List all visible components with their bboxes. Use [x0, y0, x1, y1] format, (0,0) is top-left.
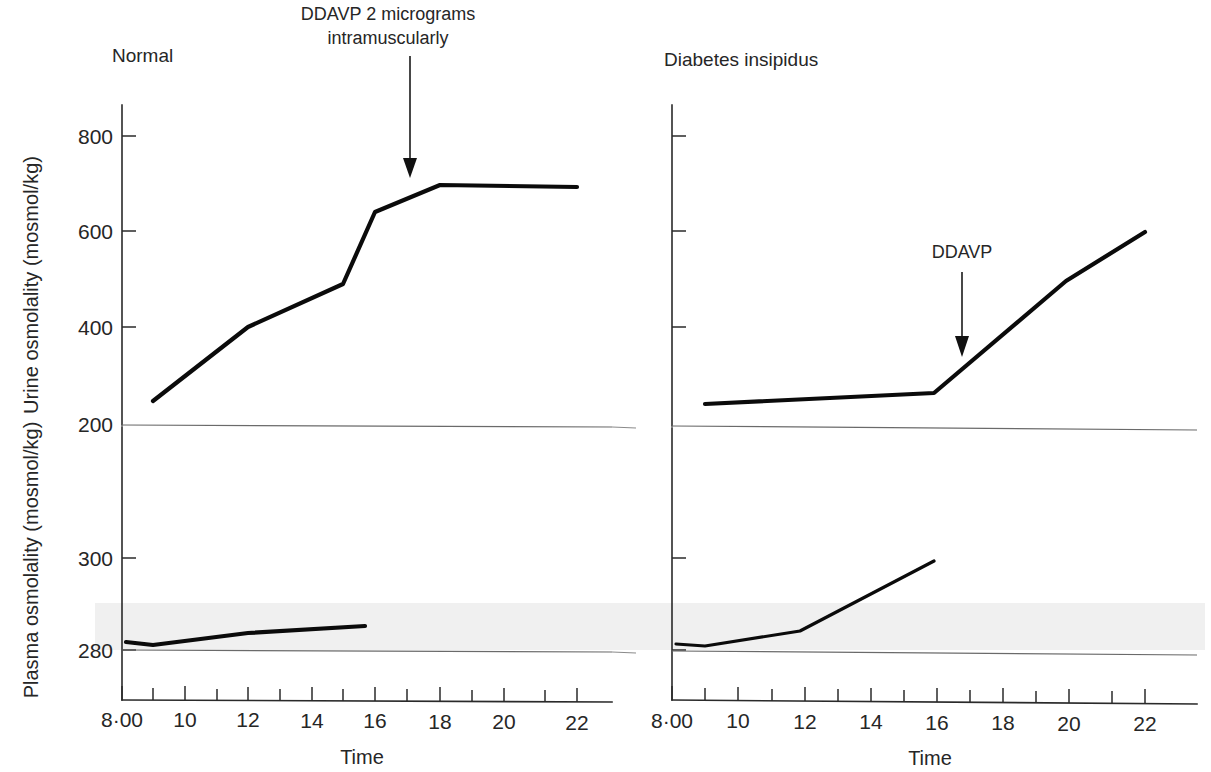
urine-yticklabel-200: 200: [78, 413, 113, 436]
series-urine-diabetes-insipidus: [705, 232, 1145, 404]
xticklabel-20-left: 20: [492, 710, 515, 733]
urine-baseline-divider-right: [672, 426, 1197, 430]
series-urine-normal: [153, 185, 577, 401]
xticklabel-22-left: 22: [565, 711, 588, 734]
xticklabel-16-right: 16: [925, 711, 948, 734]
xaxis-right: [672, 700, 1197, 704]
xticklabel-18-left: 18: [428, 710, 451, 733]
xticklabel-12-right: 12: [793, 710, 816, 733]
urine-yticklabel-400: 400: [78, 316, 113, 339]
xaxis-title-left: Time: [340, 746, 384, 768]
urine-baseline-divider-left: [122, 425, 612, 427]
urine-yaxis-title: Urine osmolality (mosmol/kg): [20, 156, 42, 414]
annotation-ddavp-line1: DDAVP 2 micrograms: [301, 4, 475, 24]
xticklabel-22-right: 22: [1133, 712, 1156, 735]
xaxis-title-right: Time: [908, 747, 952, 769]
background-gray-band: [95, 603, 1205, 650]
xticklabel-800-right: 8·00: [651, 709, 693, 732]
panel-diabetes-insipidus: Diabetes insipidus DDAVP: [612, 49, 1197, 769]
xaxis-left: [122, 700, 612, 702]
xticklabel-18-right: 18: [991, 711, 1014, 734]
plasma-reference-line-280-left: [122, 650, 612, 652]
xticklabel-20-right: 20: [1057, 712, 1080, 735]
xticklabel-14-left: 14: [300, 709, 324, 732]
plasma-reference-line-280-right: [672, 651, 1197, 655]
urine-yticklabel-800: 800: [78, 125, 113, 148]
chart-svg: Normal DDAVP 2 micrograms intramuscularl…: [0, 0, 1211, 772]
xticklabel-12-left: 12: [236, 708, 259, 731]
xticklabel-14-right: 14: [859, 710, 883, 733]
divider-gap-mark-200: [612, 427, 636, 428]
panel-title-normal: Normal: [112, 45, 173, 66]
annotation-arrow-head-left: [403, 158, 417, 178]
xticklabel-10-left: 10: [173, 708, 196, 731]
panel-normal: Normal DDAVP 2 micrograms intramuscularl…: [20, 4, 612, 768]
divider-gap-mark-280: [612, 652, 636, 653]
annotation-ddavp-line2: intramuscularly: [327, 28, 448, 48]
urine-yticklabel-600: 600: [78, 220, 113, 243]
plasma-yticklabel-300: 300: [78, 547, 113, 570]
figure-canvas: Normal DDAVP 2 micrograms intramuscularl…: [0, 0, 1211, 772]
xticklabel-16-left: 16: [363, 709, 386, 732]
annotation-arrow-head-right: [955, 336, 969, 357]
annotation-ddavp-right: DDAVP: [932, 242, 993, 262]
xticklabel-10-right: 10: [726, 709, 749, 732]
panel-title-diabetes-insipidus: Diabetes insipidus: [664, 49, 818, 70]
plasma-yticklabel-280: 280: [78, 639, 113, 662]
xticklabel-800-left: 8·00: [101, 708, 143, 731]
plasma-yaxis-title: Plasma osmolality (mosmol/kg): [20, 422, 42, 699]
